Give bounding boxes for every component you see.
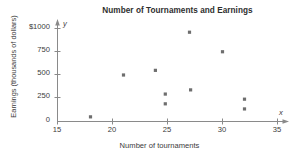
data-point bbox=[164, 92, 167, 95]
data-point bbox=[243, 107, 246, 110]
data-point bbox=[188, 31, 191, 34]
data-point bbox=[122, 73, 125, 76]
scatter-chart: Number of Tournaments and Earnings Earni… bbox=[0, 0, 295, 160]
x-axis bbox=[58, 119, 290, 125]
data-point bbox=[154, 69, 157, 72]
y-axis bbox=[55, 19, 61, 122]
data-point bbox=[189, 88, 192, 91]
data-point bbox=[243, 98, 246, 101]
plot-area bbox=[0, 0, 295, 160]
data-point-group bbox=[89, 31, 246, 119]
data-point bbox=[164, 102, 167, 105]
data-point bbox=[89, 115, 92, 118]
data-point bbox=[221, 50, 224, 53]
